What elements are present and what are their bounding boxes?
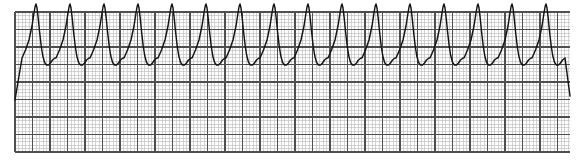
ecg-chart-canvas <box>0 0 578 165</box>
ecg-rhythm-strip <box>0 0 578 165</box>
ecg-page <box>0 0 578 165</box>
